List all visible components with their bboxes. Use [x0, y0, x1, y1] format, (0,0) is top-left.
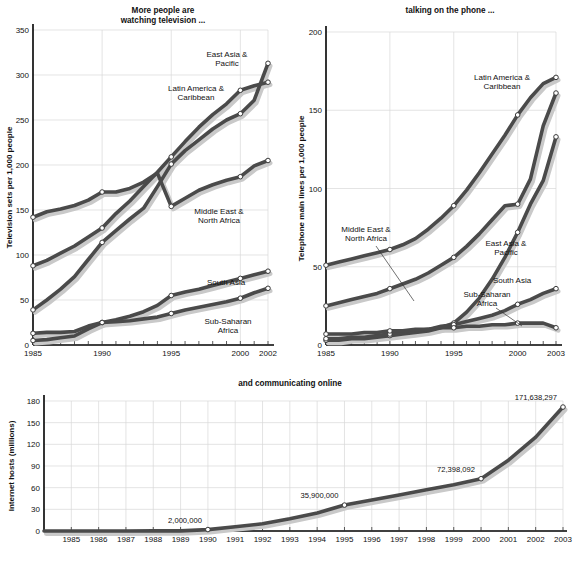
data-point-marker	[451, 325, 456, 330]
chart-title-group: talking on the phone ...	[405, 6, 494, 15]
y-axis-title: Internet hosts (millions)	[7, 420, 16, 511]
x-tick-label: 1993	[281, 535, 299, 544]
y-tick-label: 150	[16, 206, 30, 215]
data-point-marker	[479, 476, 484, 481]
data-point-marker	[266, 269, 271, 274]
y-tick-label: 150	[309, 106, 323, 115]
x-tick-label: 1995	[336, 535, 354, 544]
data-point-marker	[100, 226, 105, 231]
series-label-line2: Africa	[218, 326, 239, 335]
x-tick-label: 1987	[117, 535, 135, 544]
series-label-line1: Latin America &	[168, 84, 225, 93]
data-point-marker	[100, 320, 105, 325]
y-tick-label: 50	[313, 263, 322, 272]
data-point-marker	[388, 286, 393, 291]
series-label-line1: Middle East &	[341, 225, 391, 234]
series-label-line1: Middle East &	[194, 207, 244, 216]
x-tick-label: 1990	[93, 349, 111, 358]
series-label-line1: East Asia &	[207, 50, 249, 59]
x-tick-label: 1999	[445, 535, 463, 544]
data-point-marker	[31, 308, 36, 313]
x-tick-label: 1997	[390, 535, 408, 544]
chart-title-group: and communicating online	[238, 379, 342, 388]
data-point-marker	[266, 61, 271, 66]
chart-title-line2: watching television ...	[120, 16, 206, 25]
chart-title-line1: talking on the phone ...	[405, 6, 494, 15]
value-label: 72,398,092	[437, 465, 475, 474]
x-tick-label: 1988	[144, 535, 162, 544]
series-label-line1: East Asia &	[486, 239, 528, 248]
x-tick-label: 1989	[172, 535, 190, 544]
series-line	[33, 82, 268, 266]
data-point-marker	[451, 255, 456, 260]
series-label-line2: North Africa	[198, 216, 240, 225]
data-point-marker	[169, 293, 174, 298]
data-point-marker	[169, 204, 174, 209]
x-tick-label: 1996	[363, 535, 381, 544]
y-tick-label: 350	[16, 26, 30, 35]
x-tick-label: 2002	[527, 535, 545, 544]
y-axis-title: Television sets per 1,000 people	[5, 126, 14, 248]
series-label-line1: Latin America &	[474, 73, 531, 82]
y-tick-labels: 0306090120150180	[27, 397, 41, 536]
data-point-marker	[100, 240, 105, 245]
y-tick-labels: 050100150200	[309, 28, 323, 350]
y-tick-label: 150	[27, 419, 41, 428]
data-point-marker	[324, 336, 329, 341]
data-point-marker	[342, 503, 347, 508]
series-annotation: East Asia &Pacific	[486, 239, 528, 257]
x-tick-label: 2000	[231, 349, 249, 358]
x-tick-labels: 1985198619871988198919901991199219931994…	[62, 535, 572, 544]
data-point-marker	[31, 264, 36, 269]
x-tick-label: 1995	[162, 349, 180, 358]
x-tick-label: 1985	[62, 535, 80, 544]
y-tick-label: 90	[31, 462, 40, 471]
x-tick-label: 1998	[418, 535, 436, 544]
y-tick-label: 0	[36, 527, 41, 536]
y-tick-label: 200	[309, 28, 323, 37]
x-tick-label: 1990	[199, 535, 217, 544]
series-annotation: Sub-SaharanAfrica	[204, 317, 251, 335]
data-point-marker	[388, 247, 393, 252]
data-point-marker	[266, 286, 271, 291]
data-point-marker	[324, 263, 329, 268]
data-point-marker	[169, 155, 174, 160]
y-tick-label: 100	[16, 251, 30, 260]
y-tick-label: 60	[31, 484, 40, 493]
y-tick-label: 30	[31, 505, 40, 514]
series-group	[33, 63, 270, 343]
telephone-chart-svg: talking on the phone ...Telephone main l…	[290, 0, 581, 375]
y-tick-label: 200	[16, 161, 30, 170]
series-label-line2: Pacific	[215, 59, 239, 68]
x-tick-label: 1995	[445, 349, 463, 358]
data-point-marker	[238, 174, 243, 179]
data-point-marker	[554, 286, 559, 291]
y-tick-label: 250	[16, 116, 30, 125]
data-point-marker	[31, 215, 36, 220]
series-annotation: South Asia	[493, 276, 532, 285]
data-point-marker	[554, 75, 559, 80]
x-tick-label: 2003	[547, 349, 565, 358]
series-label-line1: South Asia	[207, 278, 246, 287]
data-point-marker	[515, 302, 520, 307]
x-tick-label: 2001	[499, 535, 517, 544]
data-point-marker	[169, 311, 174, 316]
x-tick-label: 2000	[509, 349, 527, 358]
y-tick-label: 180	[27, 397, 41, 406]
y-tick-label: 50	[20, 296, 29, 305]
chart-title-line1: and communicating online	[238, 379, 342, 388]
series-annotation: Latin America &Caribbean	[474, 73, 531, 91]
series-markers	[206, 405, 566, 532]
data-point-marker	[31, 331, 36, 336]
series-label-line1: Sub-Saharan	[204, 317, 251, 326]
chart-panel-internet: and communicating onlineInternet hosts (…	[0, 375, 581, 561]
series-annotation: Latin America &Caribbean	[168, 84, 225, 102]
series-annotation: East Asia &Pacific	[207, 50, 249, 68]
data-point-marker	[31, 338, 36, 343]
x-tick-label: 2002	[259, 349, 277, 358]
series-line	[44, 407, 563, 531]
data-point-marker	[388, 329, 393, 334]
data-point-marker	[561, 405, 566, 410]
data-point-marker	[238, 296, 243, 301]
value-label: 35,900,000	[300, 491, 338, 500]
